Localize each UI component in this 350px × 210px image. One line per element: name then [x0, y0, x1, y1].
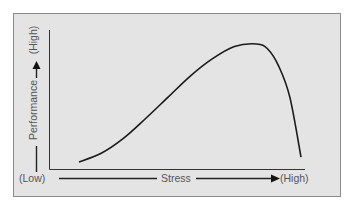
y-axis-label: Performance — [27, 80, 39, 140]
x-arrow-right-icon — [271, 175, 280, 183]
x-high-label: (High) — [280, 172, 309, 184]
y-axis-label-group: Performance — [27, 80, 39, 140]
x-axis-label: Stress — [161, 172, 191, 184]
x-low-label: (Low) — [19, 172, 45, 184]
performance-curve — [79, 44, 301, 162]
y-high-label: (High) — [27, 26, 39, 55]
y-high-label-group: (High) — [27, 26, 39, 55]
y-arrow-up-icon — [33, 61, 41, 69]
